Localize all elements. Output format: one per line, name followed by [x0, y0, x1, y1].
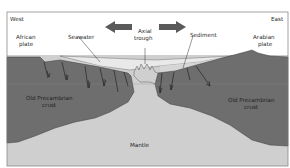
label-african-plate-1: African	[16, 34, 36, 40]
label-right-crust-2: crust	[244, 104, 259, 110]
label-left-crust-1: Old Precambrian	[26, 95, 73, 101]
label-arabian-plate-1: Arabian	[253, 34, 275, 40]
label-african-plate-2: plate	[19, 41, 34, 48]
rift-diagram: West East African plate Seawater Axial t…	[0, 0, 290, 168]
label-arabian-plate-2: plate	[258, 41, 273, 48]
label-axial-trough-1: Axial	[138, 28, 152, 34]
label-mantle: Mantle	[130, 142, 150, 148]
label-sediment: Sediment	[190, 32, 218, 38]
label-left-crust-2: crust	[42, 102, 57, 108]
label-east: East	[271, 16, 284, 22]
label-seawater: Seawater	[68, 34, 95, 40]
label-west: West	[10, 16, 25, 22]
label-axial-trough-2: trough	[134, 35, 153, 42]
label-right-crust-1: Old Precambrian	[228, 97, 275, 103]
